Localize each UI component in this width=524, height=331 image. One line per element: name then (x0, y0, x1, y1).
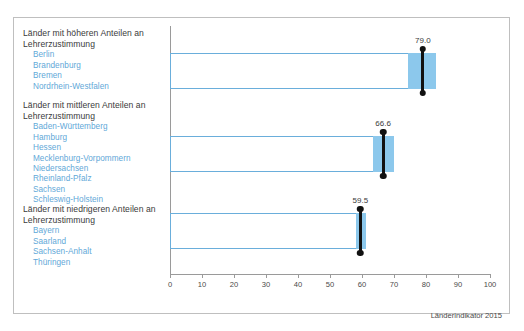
x-axis-tick-label: 10 (198, 280, 206, 289)
x-axis-tick-label: 50 (326, 280, 334, 289)
x-axis-tick-label: 100 (484, 280, 497, 289)
value-marker (382, 132, 385, 176)
x-axis-tick (426, 274, 427, 278)
legend-group-3: Länder mit niedrigeren Anteilen an Lehre… (23, 204, 168, 268)
marker-cap-bottom (357, 250, 364, 257)
x-axis-tick-label: 80 (422, 280, 430, 289)
legend-group-title: Länder mit niedrigeren Anteilen an Lehre… (23, 204, 168, 226)
legend-state-list: Baden-WürttembergHamburgHessenMecklenbur… (23, 122, 168, 205)
legend-state-item: Baden-Württemberg (23, 122, 168, 132)
x-axis-tick-label: 20 (230, 280, 238, 289)
chart-bar (170, 136, 394, 172)
legend-state-item: Rheinland-Pfalz (23, 174, 168, 184)
chart-plot-area: 010203040506070809010079.066.659.5 (170, 26, 490, 274)
x-axis-tick (394, 274, 395, 278)
legend-state-item: Niedersachsen (23, 164, 168, 174)
legend-group-1: Länder mit höheren Anteilen an Lehrerzus… (23, 28, 168, 92)
x-axis-tick (234, 274, 235, 278)
legend-group-title: Länder mit mittleren Anteilen an Lehrerz… (23, 100, 168, 122)
x-axis-tick (202, 274, 203, 278)
x-axis-tick (458, 274, 459, 278)
value-label: 79.0 (415, 36, 431, 45)
legend-group-title: Länder mit höheren Anteilen an Lehrerzus… (23, 28, 168, 50)
x-axis-tick-label: 30 (262, 280, 270, 289)
source-note: Länderindikator 2015 (431, 311, 502, 320)
x-axis-tick (266, 274, 267, 278)
x-axis-tick (330, 274, 331, 278)
x-axis-tick (362, 274, 363, 278)
value-marker (359, 209, 362, 253)
legend-state-item: Bayern (23, 226, 168, 236)
marker-cap-top (357, 206, 364, 213)
legend-state-item: Nordrhein-Westfalen (23, 82, 168, 92)
figure-root: Länder mit höheren Anteilen an Lehrerzus… (0, 0, 524, 331)
value-label: 66.6 (375, 119, 391, 128)
x-axis-tick-label: 70 (390, 280, 398, 289)
x-axis-tick (490, 274, 491, 278)
legend-state-list: BerlinBrandenburgBremenNordrhein-Westfal… (23, 50, 168, 92)
legend-state-item: Bremen (23, 71, 168, 81)
marker-cap-bottom (380, 173, 387, 180)
legend-state-item: Sachsen-Anhalt (23, 247, 168, 257)
legend-state-item: Sachsen (23, 185, 168, 195)
marker-cap-top (420, 46, 427, 53)
legend-state-item: Brandenburg (23, 61, 168, 71)
chart-bar (170, 213, 366, 249)
legend-state-item: Thüringen (23, 258, 168, 268)
clipped-header-text (0, 0, 524, 9)
x-axis-tick (170, 274, 171, 278)
marker-cap-top (380, 129, 387, 136)
value-marker (421, 49, 424, 93)
legend-state-item: Hamburg (23, 133, 168, 143)
legend-state-item: Saarland (23, 237, 168, 247)
legend-state-item: Mecklenburg-Vorpommern (23, 154, 168, 164)
marker-cap-bottom (420, 90, 427, 97)
x-axis-tick (298, 274, 299, 278)
value-label: 59.5 (353, 196, 369, 205)
legend-group-2: Länder mit mittleren Anteilen an Lehrerz… (23, 100, 168, 206)
x-axis-tick-label: 60 (358, 280, 366, 289)
x-axis-tick-label: 90 (454, 280, 462, 289)
legend-state-list: BayernSaarlandSachsen-AnhaltThüringen (23, 226, 168, 268)
legend-state-item: Berlin (23, 50, 168, 60)
x-axis-tick-label: 40 (294, 280, 302, 289)
legend-state-item: Hessen (23, 143, 168, 153)
chart-bar (170, 53, 436, 89)
x-axis-tick-label: 0 (168, 280, 172, 289)
